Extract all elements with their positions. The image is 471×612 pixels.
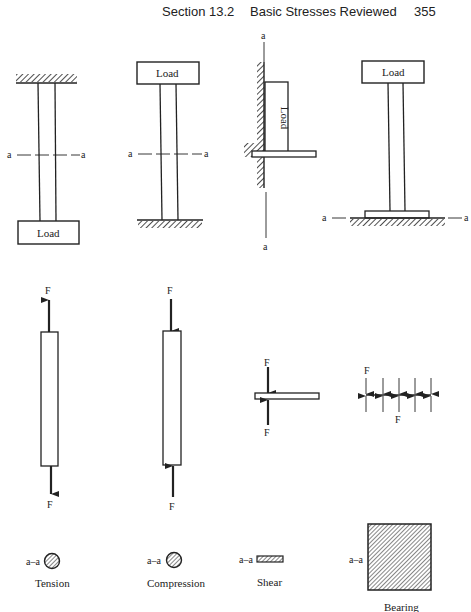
shear-free-body: F F bbox=[255, 357, 319, 438]
stress-figure: a a Load Load a a a Load a Load bbox=[0, 0, 471, 612]
load-label: Load bbox=[279, 107, 291, 130]
section-marker-left: a bbox=[322, 212, 327, 223]
compression-caption: Compression bbox=[147, 577, 206, 589]
tension-free-body: F F bbox=[41, 285, 58, 510]
bar-body bbox=[41, 332, 58, 466]
section-label: a–a bbox=[349, 554, 363, 565]
circular-section-hatch bbox=[167, 553, 182, 568]
bearing-member-diagram: Load a a bbox=[322, 61, 469, 226]
section-label: a–a bbox=[147, 555, 161, 566]
shear-plate bbox=[252, 151, 316, 157]
compression-cross-section: a–a Compression bbox=[147, 553, 206, 590]
force-label-top: F bbox=[264, 357, 270, 368]
load-label: Load bbox=[382, 66, 405, 78]
shear-plate bbox=[255, 393, 319, 399]
load-label: Load bbox=[156, 67, 179, 79]
section-marker-bottom: a bbox=[263, 241, 268, 252]
shear-member-diagram: a Load a bbox=[244, 30, 316, 252]
force-label-top: F bbox=[364, 365, 370, 376]
section-label: a–a bbox=[239, 554, 253, 565]
base-plate bbox=[365, 211, 429, 218]
compression-free-body: F F bbox=[163, 285, 181, 512]
section-label: a–a bbox=[26, 556, 40, 567]
force-label-bottom: F bbox=[395, 414, 401, 425]
tension-caption: Tension bbox=[35, 577, 70, 589]
bearing-free-body: F F bbox=[364, 365, 431, 425]
section-marker-right: a bbox=[464, 212, 469, 223]
section-marker-left: a bbox=[128, 148, 133, 159]
compression-member-diagram: Load a a bbox=[128, 62, 209, 228]
bearing-caption: Bearing bbox=[384, 601, 419, 612]
section-marker-top: a bbox=[261, 30, 266, 41]
force-label-bottom: F bbox=[169, 501, 175, 512]
circular-section-hatch bbox=[45, 554, 60, 569]
rect-section-hatch bbox=[257, 556, 283, 562]
tension-cross-section: a–a Tension bbox=[26, 554, 70, 590]
section-marker-right: a bbox=[204, 148, 209, 159]
tension-member-diagram: a a Load bbox=[7, 74, 86, 244]
ceiling-support-hatch bbox=[16, 74, 77, 82]
wall-hatch bbox=[257, 62, 264, 188]
section-marker-left: a bbox=[7, 149, 12, 160]
square-section-hatch bbox=[368, 524, 431, 590]
force-label-bottom: F bbox=[264, 427, 270, 438]
ground-hatch bbox=[138, 221, 202, 228]
bar-body bbox=[163, 331, 181, 465]
section-marker-right: a bbox=[81, 149, 86, 160]
bearing-cross-section: a–a Bearing bbox=[349, 524, 431, 612]
force-label-bottom: F bbox=[47, 499, 53, 510]
ground-hatch bbox=[350, 219, 445, 226]
shear-cross-section: a–a Shear bbox=[239, 554, 283, 588]
force-label-top: F bbox=[167, 285, 173, 296]
load-label: Load bbox=[37, 227, 60, 239]
force-label-top: F bbox=[45, 285, 51, 296]
shear-caption: Shear bbox=[257, 576, 282, 588]
